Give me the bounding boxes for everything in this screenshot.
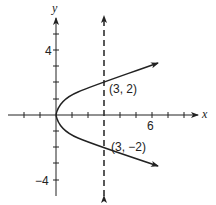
tick-label-y4: 4 (45, 44, 52, 58)
y-axis (53, 18, 59, 196)
x-axis (8, 112, 198, 118)
x-axis-label: x (201, 107, 208, 121)
tick-label-x6: 6 (147, 119, 154, 133)
point-label-upper: (3, 2) (109, 82, 137, 96)
graph: y x 6 4 −4 (3, 2) (3, −2) (0, 0, 216, 205)
tick-label-yneg4: −4 (35, 174, 49, 188)
y-axis-label: y (51, 1, 58, 15)
parabola-upper (56, 63, 158, 115)
point-label-lower: (3, −2) (111, 140, 146, 154)
